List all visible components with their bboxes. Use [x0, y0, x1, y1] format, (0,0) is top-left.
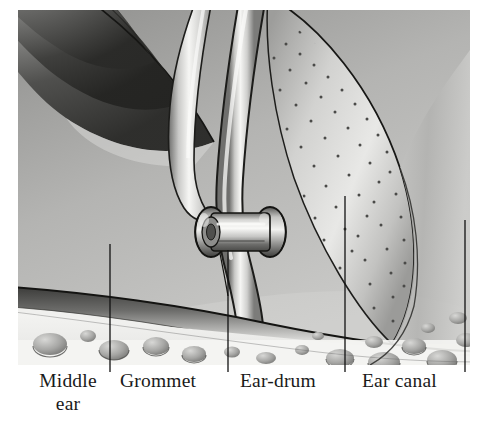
- label-middle-ear-line1: Middle: [39, 370, 97, 391]
- label-ear-canal: Ear canal: [362, 370, 437, 392]
- grommet[interactable]: [195, 207, 286, 257]
- ear-anatomy-figure: Middle ear Grommet Ear-drum Ear canal: [0, 0, 484, 428]
- illustration-canvas: [18, 10, 470, 365]
- label-row: Middle ear Grommet Ear-drum Ear canal: [0, 366, 484, 428]
- grommet-lumen: [207, 224, 216, 240]
- label-middle-ear-line2: ear: [30, 393, 106, 415]
- illustration-body: [18, 10, 470, 365]
- label-grommet: Grommet: [120, 370, 196, 392]
- label-middle-ear: Middle ear: [30, 370, 106, 415]
- label-ear-drum: Ear-drum: [240, 370, 316, 392]
- ear-cross-section-drawing: [18, 10, 470, 365]
